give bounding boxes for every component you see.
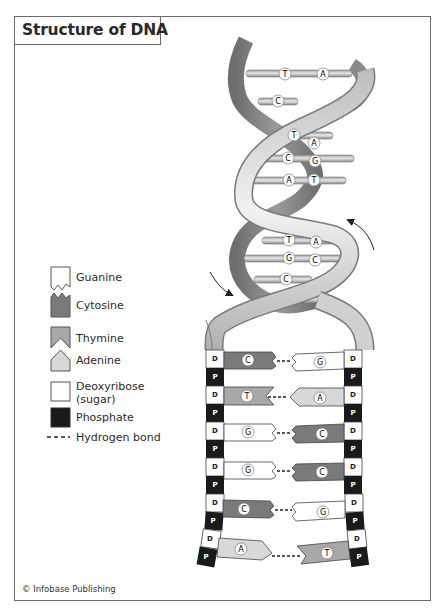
svg-text:D: D [354, 535, 360, 543]
base-pair-rung: C G [223, 500, 345, 521]
svg-text:T: T [282, 70, 288, 79]
svg-text:D: D [212, 391, 218, 399]
base-pair-rung: T A [224, 387, 344, 406]
left-backbone: D P D P D P D P D P D P [197, 350, 224, 567]
legend-label-deoxyribose: Deoxyribose [76, 380, 144, 393]
svg-text:P: P [352, 517, 357, 525]
base-pair-rung: C G [224, 352, 344, 371]
svg-text:G: G [286, 254, 292, 263]
svg-text:C: C [275, 97, 281, 106]
rotation-arrow-left-icon [210, 272, 232, 295]
svg-text:A: A [238, 545, 244, 554]
svg-text:P: P [210, 517, 215, 525]
svg-text:P: P [212, 373, 217, 381]
svg-text:C: C [319, 430, 325, 439]
cytosine-swatch-icon [51, 293, 70, 317]
svg-text:G: G [317, 358, 323, 367]
svg-text:P: P [212, 445, 217, 453]
svg-text:P: P [212, 481, 217, 489]
svg-text:C: C [245, 356, 251, 365]
base-pair-rung: G C [224, 424, 344, 443]
dna-illustration: T A C T A C G A T T A G C [0, 0, 448, 614]
copyright-credit: © Infobase Publishing [22, 584, 116, 594]
svg-text:C: C [312, 256, 318, 265]
svg-text:T: T [244, 392, 250, 401]
svg-text:P: P [350, 409, 355, 417]
svg-text:D: D [350, 391, 356, 399]
svg-text:D: D [207, 535, 213, 543]
svg-text:D: D [212, 427, 218, 435]
guanine-swatch-icon [51, 267, 70, 290]
svg-text:T: T [311, 176, 317, 185]
svg-text:D: D [351, 499, 357, 507]
deoxyribose-swatch-icon [51, 382, 70, 401]
svg-text:P: P [212, 409, 217, 417]
legend-label-cytosine: Cytosine [76, 299, 124, 312]
legend-label-thymine: Thymine [76, 332, 124, 345]
svg-text:P: P [356, 553, 361, 561]
svg-text:T: T [286, 236, 292, 245]
legend-label-phosphate: Phosphate [76, 411, 134, 424]
phosphate-swatch-icon [51, 408, 70, 427]
thymine-swatch-icon [51, 327, 70, 348]
legend-label-hydrogen-bond: Hydrogen bond [76, 431, 161, 444]
svg-text:D: D [350, 355, 356, 363]
base-pair-rung: A T [217, 538, 350, 564]
svg-text:G: G [245, 466, 251, 475]
svg-text:P: P [350, 445, 355, 453]
svg-text:P: P [350, 481, 355, 489]
svg-text:P: P [350, 373, 355, 381]
svg-text:G: G [312, 157, 318, 166]
svg-text:T: T [291, 131, 297, 140]
svg-text:G: G [320, 508, 326, 517]
legend-label-guanine: Guanine [76, 271, 122, 284]
svg-text:D: D [212, 499, 218, 507]
svg-text:A: A [320, 70, 326, 79]
svg-text:A: A [313, 238, 319, 247]
svg-text:D: D [212, 463, 218, 471]
svg-text:D: D [212, 355, 218, 363]
legend [47, 267, 70, 437]
legend-label-adenine: Adenine [76, 354, 121, 367]
svg-text:C: C [241, 505, 247, 514]
dna-ladder: D P D P D P D P D P D P D [197, 350, 370, 567]
double-helix: T A C T A C G A T T A G C [210, 40, 374, 350]
svg-text:C: C [285, 154, 291, 163]
svg-text:D: D [350, 427, 356, 435]
legend-label-deoxyribose-sugar: (sugar) [76, 393, 116, 406]
svg-text:C: C [319, 468, 325, 477]
svg-text:G: G [245, 428, 251, 437]
svg-text:A: A [317, 394, 323, 403]
svg-text:P: P [203, 553, 208, 561]
svg-text:A: A [311, 139, 317, 148]
svg-text:A: A [286, 176, 292, 185]
base-pair-rung: G C [224, 462, 344, 481]
svg-text:T: T [324, 549, 330, 558]
right-backbone: D P D P D P D P D P D P [344, 350, 369, 567]
adenine-swatch-icon [51, 350, 70, 371]
svg-text:C: C [283, 275, 289, 284]
svg-text:D: D [350, 463, 356, 471]
